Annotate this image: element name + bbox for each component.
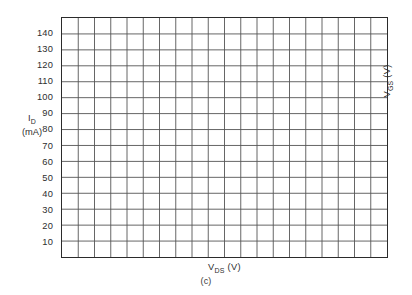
- figure-caption: (c): [0, 276, 412, 286]
- y-axis-title-symbol: ID: [12, 113, 52, 127]
- figure-container: 102030405060708090100110120130140 ID (mA…: [0, 0, 412, 295]
- y-axis-tick-label: 100: [37, 93, 53, 102]
- right-axis-title: VGS (V): [382, 46, 396, 116]
- y-axis-tick-label: 30: [42, 205, 53, 214]
- y-axis-tick-label: 70: [42, 141, 53, 150]
- x-axis-title: VDS (V): [61, 262, 388, 274]
- right-axis-title-units-spacer: [382, 78, 392, 81]
- x-axis-title-units: (V): [228, 262, 241, 272]
- y-axis-tick-label: 60: [42, 157, 53, 166]
- plot-area: [61, 17, 388, 258]
- y-axis-tick-label: 50: [42, 173, 53, 182]
- y-axis-tick-label: 40: [42, 189, 53, 198]
- y-axis-tick-label: 140: [37, 29, 53, 38]
- grid-lines: [62, 18, 387, 257]
- y-axis-subscript: D: [31, 118, 36, 125]
- right-axis-subscript: GS: [387, 81, 394, 92]
- y-axis-tick-label: 110: [38, 77, 53, 86]
- right-axis-title-units: (V): [382, 64, 392, 77]
- x-axis-subscript: DS: [215, 267, 225, 274]
- y-axis-tick-label: 130: [37, 45, 53, 54]
- y-axis-tick-label: 10: [42, 237, 53, 246]
- right-axis-symbol-text: V: [382, 91, 392, 98]
- y-axis-tick-label: 20: [42, 221, 53, 230]
- y-axis-title: ID (mA): [12, 113, 52, 139]
- y-axis-title-units: (mA): [12, 127, 52, 139]
- y-axis-tick-label: 120: [37, 61, 53, 70]
